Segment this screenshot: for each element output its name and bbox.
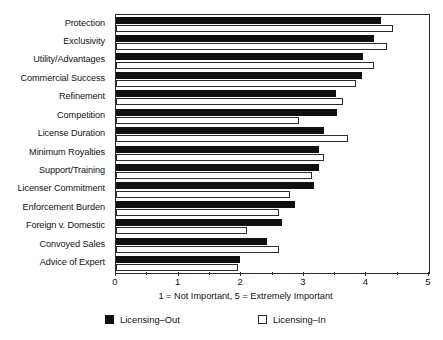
bar-row [116,236,429,254]
x-axis-tick-label: 3 [300,277,305,287]
x-axis-tick-label: 4 [363,277,368,287]
plot-area [115,14,430,274]
bar-licensing-out [116,164,319,171]
bar-licensing-in [116,227,247,234]
bar-licensing-in [116,43,387,50]
bar-row [116,33,429,51]
bar-row [116,89,429,107]
legend-swatch-open-square-icon [258,315,267,324]
x-axis-tick-label: 0 [112,277,117,287]
bar-row [116,15,429,33]
bar-licensing-in [116,62,374,69]
legend-swatch-filled-square-icon [105,315,114,324]
category-label: Advice of Expert [0,253,110,271]
bar-licensing-out [116,109,337,116]
legend-label-licensing-in: Licensing–In [273,314,326,325]
bar-licensing-in [116,135,348,142]
category-label: Refinement [0,88,110,106]
chart-legend: Licensing–Out Licensing–In [0,314,443,334]
category-label: Licenser Commitment [0,180,110,198]
category-label: Support/Training [0,161,110,179]
bar-row [116,162,429,180]
bar-licensing-out [116,53,363,60]
category-label: Competition [0,106,110,124]
bar-licensing-out [116,146,319,153]
category-label: Minimum Royalties [0,143,110,161]
bar-row [116,218,429,236]
category-label: License Duration [0,125,110,143]
x-axis-minor-tick [209,272,210,275]
bar-licensing-out [116,72,362,79]
bar-licensing-in [116,264,238,271]
bar-licensing-in [116,172,312,179]
category-label: Enforcement Burden [0,198,110,216]
x-axis-tick-label: 1 [175,277,180,287]
bar-licensing-in [116,191,290,198]
bar-licensing-in [116,25,393,32]
bar-licensing-in [116,246,279,253]
bar-licensing-out [116,219,282,226]
x-axis-tick-label: 2 [238,277,243,287]
bar-row [116,181,429,199]
bar-licensing-out [116,256,240,263]
bar-row [116,107,429,125]
legend-label-licensing-out: Licensing–Out [120,314,180,325]
bar-row [116,199,429,217]
bar-licensing-in [116,98,343,105]
bar-row [116,254,429,272]
bar-licensing-out [116,17,381,24]
legend-item-licensing-in: Licensing–In [258,314,326,325]
bar-licensing-in [116,209,279,216]
x-axis-title: 1 = Not Important, 5 = Extremely Importa… [0,291,443,301]
bar-row [116,52,429,70]
x-axis-minor-tick [146,272,147,275]
bar-licensing-out [116,35,374,42]
bar-row [116,144,429,162]
x-axis-tick-label: 5 [425,277,430,287]
legend-item-licensing-out: Licensing–Out [105,314,180,325]
bar-licensing-out [116,238,267,245]
category-label: Utility/Advantages [0,51,110,69]
bar-licensing-in [116,80,356,87]
category-label: Exclusivity [0,32,110,50]
x-axis-minor-tick [272,272,273,275]
x-axis-minor-tick [334,272,335,275]
horizontal-bar-chart: ProtectionExclusivityUtility/AdvantagesC… [0,0,443,340]
bar-row [116,126,429,144]
category-label: Commercial Success [0,69,110,87]
bar-licensing-in [116,154,324,161]
bar-licensing-in [116,117,299,124]
category-label: Foreign v. Domestic [0,217,110,235]
x-axis-title-text: 1 = Not Important, 5 = Extremely Importa… [158,291,332,301]
bar-rows [116,15,429,273]
bar-licensing-out [116,201,295,208]
x-axis-minor-tick [397,272,398,275]
bar-licensing-out [116,90,336,97]
category-label: Convoyed Sales [0,235,110,253]
category-label: Protection [0,14,110,32]
bar-licensing-out [116,127,324,134]
bar-row [116,70,429,88]
bar-licensing-out [116,182,314,189]
category-axis-labels: ProtectionExclusivityUtility/AdvantagesC… [0,14,110,272]
